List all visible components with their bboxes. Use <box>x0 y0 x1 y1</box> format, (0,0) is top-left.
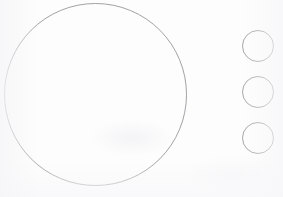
circles-drawing <box>0 0 283 197</box>
small-circle-1[interactable] <box>243 31 274 62</box>
large-circle[interactable] <box>5 4 187 186</box>
small-circle-3[interactable] <box>243 123 274 154</box>
drawing-canvas <box>0 0 283 197</box>
small-circle-2[interactable] <box>243 77 274 108</box>
